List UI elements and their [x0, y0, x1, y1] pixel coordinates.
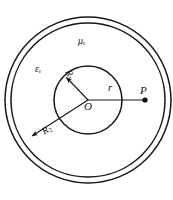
- point-p-dot: [142, 97, 147, 102]
- label-radius-r: r: [108, 82, 112, 93]
- label-point-p: P: [140, 85, 147, 96]
- label-mu-r: μr: [78, 36, 85, 47]
- label-center-o: O: [84, 101, 92, 112]
- radius-vector-R2: [32, 100, 88, 136]
- radius-vector-R1: [67, 78, 89, 101]
- figure-canvas: μr εr r O P R1 R2: [0, 0, 173, 200]
- label-epsilon-r: εr: [35, 64, 41, 75]
